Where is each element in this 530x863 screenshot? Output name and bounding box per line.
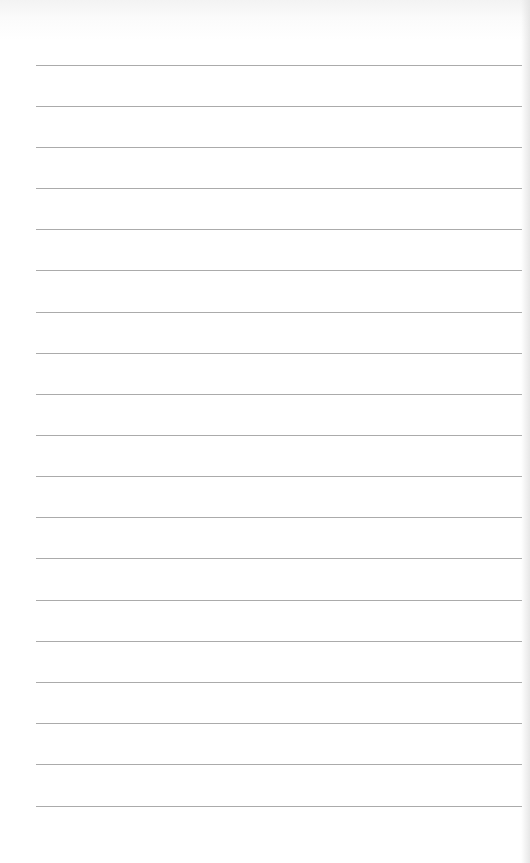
- ruled-line: [36, 806, 522, 807]
- ruled-line: [36, 147, 522, 148]
- ruled-line: [36, 65, 522, 66]
- ruled-line: [36, 353, 522, 354]
- ruled-line: [36, 188, 522, 189]
- ruled-line: [36, 764, 522, 765]
- ruled-line: [36, 106, 522, 107]
- ruled-line: [36, 682, 522, 683]
- ruled-line: [36, 641, 522, 642]
- ruled-line: [36, 229, 522, 230]
- lined-paper-sheet: [0, 0, 530, 863]
- ruled-line: [36, 600, 522, 601]
- ruled-line: [36, 270, 522, 271]
- ruled-line: [36, 435, 522, 436]
- ruled-line: [36, 476, 522, 477]
- ruled-line: [36, 558, 522, 559]
- ruled-line: [36, 723, 522, 724]
- ruled-line: [36, 517, 522, 518]
- paper-edge-shadow: [521, 0, 530, 863]
- ruled-line: [36, 394, 522, 395]
- ruled-line: [36, 312, 522, 313]
- ruled-lines: [0, 0, 530, 863]
